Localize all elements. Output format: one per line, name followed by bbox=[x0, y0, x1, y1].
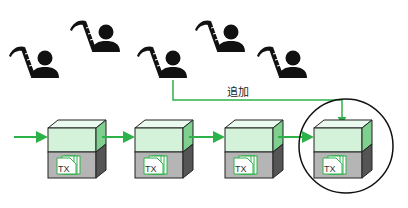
miner-icon-1 bbox=[9, 46, 59, 78]
block-3 bbox=[225, 120, 283, 178]
block-1 bbox=[48, 120, 106, 178]
tx-label-1: TX bbox=[58, 164, 70, 174]
block-2 bbox=[135, 120, 193, 178]
block-4 bbox=[314, 120, 372, 178]
tx-label-2: TX bbox=[145, 164, 157, 174]
miner-icon-3 bbox=[137, 46, 187, 78]
tx-label-3: TX bbox=[235, 164, 247, 174]
tx-label-4: TX bbox=[324, 164, 336, 174]
miner-icon-2 bbox=[70, 20, 120, 52]
add-connector-line bbox=[173, 80, 342, 124]
miner-icon-4 bbox=[195, 20, 245, 52]
miner-icon-5 bbox=[257, 46, 307, 78]
blockchain-diagram: TX TX TX TX bbox=[0, 0, 408, 208]
add-label: 追加 bbox=[227, 83, 249, 99]
